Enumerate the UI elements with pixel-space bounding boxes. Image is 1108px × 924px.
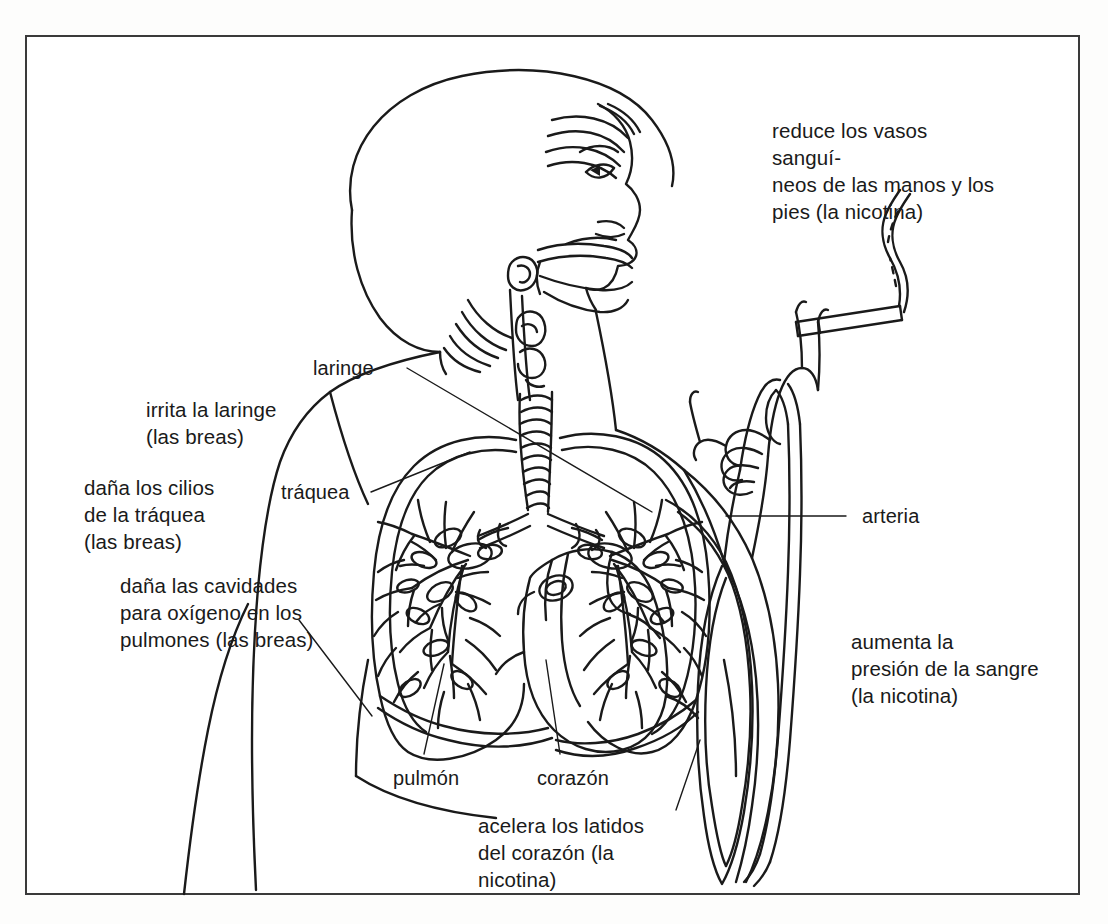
hand [690, 301, 828, 494]
annotation-dana-cilios: daña los cilios de la tráquea (las breas… [84, 474, 314, 555]
cigarette [796, 306, 902, 336]
bronchial-tree-left [374, 500, 508, 728]
part-label-arteria: arteria [862, 503, 919, 530]
bronchial-tree-right [572, 500, 706, 728]
annotation-dana-cavidades: daña las cavidades para oxígeno en los p… [120, 572, 370, 653]
eye [580, 146, 618, 178]
annotation-acelera-latidos: acelera los latidos del corazón (la nico… [478, 812, 708, 893]
trachea [519, 392, 552, 512]
annotation-reduce-vasos-sanguineos: reduce los vasos sanguí- neos de las man… [772, 117, 1002, 225]
annotation-irrita-laringe: irrita la laringe (las breas) [146, 396, 376, 450]
annotation-aumenta-presion: aumenta la presión de la sangre (la nico… [851, 628, 1071, 709]
larynx [516, 312, 545, 387]
page-canvas: reduce los vasos sanguí- neos de las man… [0, 0, 1108, 924]
hair-strands [440, 300, 512, 374]
artery [666, 384, 802, 886]
part-label-pulmon: pulmón [393, 765, 459, 792]
part-label-corazon: corazón [537, 765, 609, 792]
lung-left [372, 437, 524, 760]
part-label-traquea: tráquea [281, 479, 350, 506]
leader-latidos [676, 740, 700, 810]
part-label-laringe: laringe [313, 355, 374, 382]
face-profile [586, 104, 640, 310]
ear [508, 257, 537, 290]
mouth-and-chin [566, 221, 624, 244]
nasal-oral-cavity [537, 244, 632, 312]
bronchi [446, 514, 634, 572]
leader-pulmon [424, 664, 444, 754]
